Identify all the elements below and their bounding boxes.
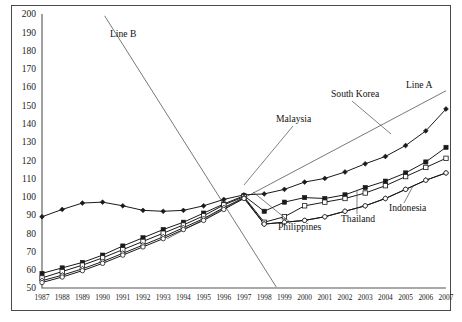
x-tick-1998: 1998 [257, 293, 272, 302]
line-chart: 5060708090100110120130140150160170180190… [0, 0, 462, 322]
x-tick-2000: 2000 [297, 293, 312, 302]
marker-malaysia [424, 160, 428, 164]
marker-philippines [141, 245, 145, 249]
annotation-label-south-korea: South Korea [331, 88, 380, 99]
marker-south-korea [262, 192, 267, 197]
axis-lines-path [42, 14, 446, 288]
x-tick-1992: 1992 [136, 293, 151, 302]
y-tick-100: 100 [22, 192, 37, 202]
x-tick-2007: 2007 [439, 293, 454, 302]
marker-philippines [262, 222, 266, 226]
marker-thailand [383, 184, 387, 188]
x-axis-tick-labels: 1987198819891990199119921993199419951996… [35, 293, 454, 302]
marker-south-korea [322, 176, 327, 181]
leader-line-south-korea [352, 101, 391, 134]
x-tick-1991: 1991 [115, 293, 130, 302]
marker-thailand [323, 200, 327, 204]
y-tick-170: 170 [22, 64, 37, 74]
x-tick-1987: 1987 [35, 293, 50, 302]
marker-thailand [403, 174, 407, 178]
marker-thailand [363, 191, 367, 195]
y-tick-200: 200 [22, 9, 37, 19]
series-line-philippines [42, 173, 446, 283]
annotation-label-malaysia: Malaysia [276, 113, 312, 124]
marker-malaysia [303, 195, 307, 199]
y-tick-130: 130 [22, 137, 37, 147]
marker-thailand [302, 204, 306, 208]
marker-malaysia [383, 179, 387, 183]
marker-south-korea [201, 203, 206, 208]
y-tick-60: 60 [27, 265, 37, 275]
y-tick-90: 90 [27, 210, 37, 220]
marker-philippines [383, 196, 387, 200]
marker-south-korea [343, 170, 348, 175]
x-tick-1997: 1997 [237, 293, 252, 302]
x-tick-2004: 2004 [378, 293, 393, 302]
marker-south-korea [40, 214, 45, 219]
y-tick-80: 80 [27, 229, 37, 239]
annotation-label-line-a: Line A [406, 79, 432, 90]
marker-south-korea [161, 209, 166, 214]
annotation-label-philippines: Philippines [278, 221, 321, 232]
marker-malaysia [40, 271, 44, 275]
x-tick-1996: 1996 [216, 293, 231, 302]
marker-malaysia [363, 185, 367, 189]
data-markers [39, 107, 448, 285]
marker-south-korea [60, 207, 65, 212]
y-tick-110: 110 [22, 174, 36, 184]
annotation-leader-lines [244, 101, 413, 222]
y-tick-140: 140 [22, 119, 37, 129]
x-tick-2005: 2005 [398, 293, 413, 302]
x-tick-1995: 1995 [196, 293, 211, 302]
marker-philippines [121, 253, 125, 257]
marker-south-korea [141, 208, 146, 213]
x-tick-1988: 1988 [55, 293, 70, 302]
marker-south-korea [302, 180, 307, 185]
marker-south-korea [80, 201, 85, 206]
x-tick-1990: 1990 [95, 293, 110, 302]
x-tick-2001: 2001 [317, 293, 332, 302]
y-tick-120: 120 [22, 156, 37, 166]
marker-philippines [80, 268, 84, 272]
marker-philippines [60, 275, 64, 279]
x-tick-1999: 1999 [277, 293, 292, 302]
axis-lines [42, 14, 446, 288]
x-tick-2002: 2002 [338, 293, 353, 302]
x-tick-2003: 2003 [358, 293, 373, 302]
marker-thailand [343, 196, 347, 200]
marker-philippines [161, 236, 165, 240]
marker-philippines [323, 215, 327, 219]
marker-south-korea [383, 154, 388, 159]
marker-thailand [424, 165, 428, 169]
marker-philippines [242, 196, 246, 200]
annotation-label-thailand: Thailand [341, 213, 375, 224]
y-axis-tick-labels: 5060708090100110120130140150160170180190… [22, 9, 37, 293]
x-tick-1989: 1989 [75, 293, 90, 302]
chart-figure: 5060708090100110120130140150160170180190… [0, 0, 462, 322]
y-tick-70: 70 [27, 247, 37, 257]
x-tick-1994: 1994 [176, 293, 191, 302]
marker-philippines [363, 204, 367, 208]
marker-malaysia [444, 145, 448, 149]
y-tick-180: 180 [22, 46, 37, 56]
marker-philippines [201, 218, 205, 222]
y-tick-190: 190 [22, 28, 37, 38]
marker-philippines [424, 178, 428, 182]
marker-thailand [444, 156, 448, 160]
marker-south-korea [181, 208, 186, 213]
marker-philippines [444, 171, 448, 175]
marker-south-korea [120, 203, 125, 208]
marker-south-korea [363, 161, 368, 166]
series-annotations: Line BLine ASouth KoreaMalaysiaPhilippin… [110, 28, 432, 232]
marker-malaysia [282, 200, 286, 204]
y-tick-160: 160 [22, 82, 37, 92]
y-tick-150: 150 [22, 101, 37, 111]
marker-malaysia [262, 209, 266, 213]
marker-philippines [181, 227, 185, 231]
x-tick-2006: 2006 [418, 293, 433, 302]
annotation-label-indonesia: Indonesia [389, 202, 427, 213]
y-tick-50: 50 [27, 283, 37, 293]
marker-philippines [100, 261, 104, 265]
x-tick-1993: 1993 [156, 293, 171, 302]
annotation-label-line-b: Line B [110, 28, 136, 39]
